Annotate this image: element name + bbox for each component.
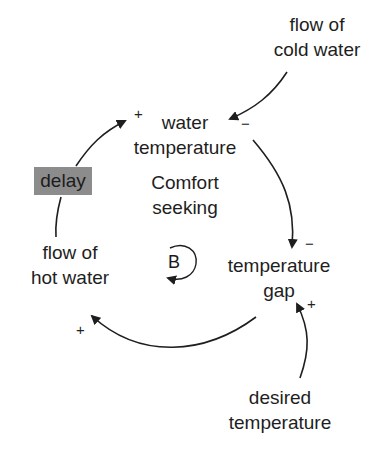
polarity-desired-to-gap: + (307, 296, 316, 311)
node-label-line: gap (214, 278, 344, 303)
link-watertemp-to-gap (253, 140, 293, 247)
link-gap-to-hotwater (92, 316, 256, 347)
polarity-cold-to-watertemp: − (241, 116, 250, 131)
loop-type-balancing: B (168, 252, 180, 272)
node-temperature-gap: temperature gap (214, 253, 344, 303)
node-label-line: temperature (215, 410, 345, 435)
loop-name: Comfort seeking (135, 170, 235, 220)
loop-name-line: seeking (135, 195, 235, 220)
node-label-line: flow of (252, 12, 382, 37)
node-label-line: temperature (214, 253, 344, 278)
loop-name-line: Comfort (135, 170, 235, 195)
node-label-line: hot water (10, 265, 130, 290)
polarity-gap-to-hotflow: + (76, 322, 85, 337)
node-label-line: desired (215, 385, 345, 410)
node-flow-of-cold-water: flow of cold water (252, 12, 382, 62)
polarity-watertemp-to-gap: − (305, 236, 314, 251)
link-desired-to-gap (297, 304, 307, 378)
link-delay-to-watertemp (76, 121, 125, 166)
node-label-line: cold water (252, 37, 382, 62)
delay-marker: delay (34, 167, 92, 195)
node-label-line: temperature (120, 135, 250, 160)
node-flow-of-hot-water: flow of hot water (10, 240, 130, 290)
polarity-hotflow-to-watertemp: + (134, 106, 143, 121)
link-hotwater-to-delay (56, 197, 61, 237)
node-desired-temperature: desired temperature (215, 385, 345, 435)
node-label-line: flow of (10, 240, 130, 265)
